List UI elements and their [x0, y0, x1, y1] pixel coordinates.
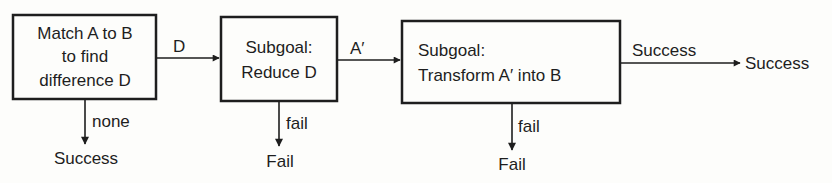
terminal-success-final: Success [745, 54, 809, 73]
edge-label-success: Success [632, 41, 696, 60]
node-transform: Subgoal: Transform A′ into B [402, 21, 620, 103]
node-transform-line-1: Subgoal: [418, 41, 485, 60]
node-match: Match A to B to find difference D [13, 15, 156, 99]
edge-transform-success: Success Success [621, 41, 809, 73]
node-reduce: Subgoal: Reduce D [221, 17, 337, 101]
edge-label-d: D [173, 37, 185, 56]
edge-reduce-transform: A′ [338, 39, 400, 60]
terminal-fail-reduce: Fail [266, 152, 293, 171]
edge-match-reduce: D [157, 37, 219, 58]
edge-match-none: none Success [54, 100, 130, 168]
terminal-fail-transform: Fail [498, 155, 525, 174]
edge-reduce-fail: fail Fail [266, 102, 307, 171]
node-match-line-1: Match A to B [37, 24, 132, 43]
edge-label-fail-reduce: fail [286, 114, 308, 133]
edge-label-a-prime: A′ [350, 39, 365, 58]
node-reduce-line-2: Reduce D [241, 63, 317, 82]
edge-label-none: none [92, 112, 130, 131]
edge-transform-fail: fail Fail [498, 104, 539, 174]
terminal-success-none: Success [54, 149, 118, 168]
diagram-canvas: Match A to B to find difference D Subgoa… [0, 0, 832, 183]
node-reduce-line-1: Subgoal: [245, 38, 312, 57]
node-match-line-2: to find [62, 47, 108, 66]
node-transform-line-2: Transform A′ into B [418, 66, 561, 85]
edge-label-fail-transform: fail [518, 117, 540, 136]
node-reduce-box [221, 17, 337, 101]
node-match-line-3: difference D [39, 71, 130, 90]
node-transform-box [402, 21, 620, 103]
